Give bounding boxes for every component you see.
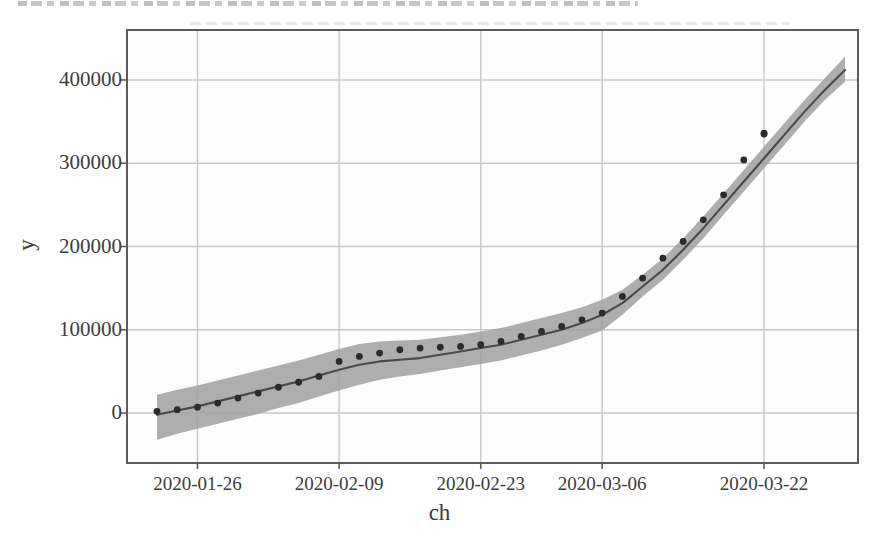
y-tick-label: 0 [10, 402, 122, 423]
data-point [477, 341, 484, 348]
x-axis-title: ch [0, 500, 879, 526]
data-point [376, 350, 383, 357]
data-point [579, 316, 586, 323]
y-tick-label: 400000 [10, 69, 122, 90]
data-point [315, 373, 322, 380]
data-point [154, 408, 161, 415]
data-point [498, 338, 505, 345]
data-point [599, 310, 606, 317]
data-point [518, 333, 525, 340]
chart-plot-area [0, 0, 879, 541]
data-point [740, 157, 747, 164]
data-point [457, 343, 464, 350]
x-tick-label: 2020-03-22 [684, 474, 844, 493]
data-point [417, 345, 424, 352]
data-point [194, 404, 201, 411]
data-point [619, 293, 626, 300]
data-point [659, 255, 666, 262]
data-point [720, 191, 727, 198]
data-point [558, 323, 565, 330]
y-axis-title: y [14, 230, 40, 260]
data-point [214, 400, 221, 407]
data-point [295, 379, 302, 386]
data-point [255, 390, 262, 397]
data-point [235, 395, 242, 402]
data-point [396, 346, 403, 353]
x-tick-label: 2020-03-06 [522, 474, 682, 493]
y-tick-label: 100000 [10, 319, 122, 340]
data-point [639, 275, 646, 282]
x-tick-label: 2020-02-09 [259, 474, 419, 493]
y-axis-tick-labels: 0100000200000300000400000 [0, 0, 122, 541]
data-point [275, 384, 282, 391]
data-point [336, 358, 343, 365]
data-point [700, 216, 707, 223]
data-point [437, 344, 444, 351]
forecast-chart-figure: 0100000200000300000400000 2020-01-262020… [0, 0, 879, 541]
data-point [356, 353, 363, 360]
x-tick-label: 2020-01-26 [117, 474, 277, 493]
data-point [761, 130, 768, 137]
y-tick-label: 300000 [10, 152, 122, 173]
data-point [174, 406, 181, 413]
data-point [538, 328, 545, 335]
data-point [680, 238, 687, 245]
